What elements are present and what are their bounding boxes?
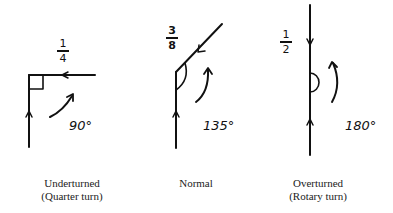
fraction-three-eighths: 3 8 [165, 25, 179, 51]
fraction-denominator: 4 [56, 53, 70, 64]
fraction-denominator: 8 [165, 40, 179, 51]
caption-title: Underturned [12, 177, 132, 190]
caption-overturned: Overturned (Rotary turn) [258, 177, 378, 203]
caption-subtitle: (Rotary turn) [258, 190, 378, 203]
angle-label-180: 180° [345, 119, 376, 132]
angle-label-135: 135° [203, 119, 234, 132]
caption-underturned: Underturned (Quarter turn) [12, 177, 132, 203]
underturned-figure [26, 72, 95, 147]
fraction-numerator: 3 [165, 25, 179, 36]
fraction-half: 1 2 [279, 29, 293, 55]
turn-diagram: 1 4 3 8 1 2 90° 135° 180° Underturned (Q… [0, 0, 393, 213]
rotation-arrow-icon [50, 96, 72, 117]
caption-title: Normal [136, 177, 256, 190]
fraction-numerator: 1 [56, 38, 70, 49]
caption-subtitle: (Quarter turn) [12, 190, 132, 203]
rotation-arrow-icon [196, 70, 208, 102]
fraction-quarter: 1 4 [56, 38, 70, 64]
right-angle-marker [29, 75, 43, 89]
fraction-denominator: 2 [279, 44, 293, 55]
angle-label-90: 90° [69, 119, 92, 132]
fraction-numerator: 1 [279, 29, 293, 40]
caption-normal: Normal [136, 177, 256, 190]
angle-semicircle-marker [310, 73, 319, 92]
overturned-figure [307, 5, 337, 155]
rotation-arrow-icon [332, 63, 337, 102]
caption-title: Overturned [258, 177, 378, 190]
